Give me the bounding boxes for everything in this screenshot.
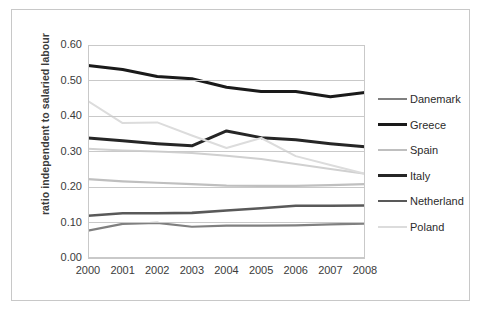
y-axis-tick-labels: 0.000.100.200.300.400.500.60 bbox=[36, 45, 82, 258]
legend-item-danemark[interactable]: Danemark bbox=[378, 90, 461, 108]
y-tick-label: 0.00 bbox=[38, 252, 82, 263]
legend-label: Spain bbox=[410, 144, 438, 156]
x-tick-label: 2008 bbox=[345, 264, 385, 276]
y-tick-label: 0.10 bbox=[38, 217, 82, 228]
legend-label: Netherland bbox=[410, 195, 464, 207]
y-tick-label: 0.40 bbox=[38, 110, 82, 121]
y-tick-label: 0.30 bbox=[38, 146, 82, 157]
legend-label: Italy bbox=[410, 170, 430, 182]
y-tick-label: 0.20 bbox=[38, 181, 82, 192]
legend-label: Greece bbox=[410, 119, 446, 131]
y-tick-label: 0.60 bbox=[38, 39, 82, 50]
chart-figure: ratio independent to salaried labour 0.0… bbox=[0, 0, 485, 319]
y-tick-label: 0.50 bbox=[38, 75, 82, 86]
legend-item-greece[interactable]: Greece bbox=[378, 116, 446, 134]
x-axis-tick-labels: 200020012002200320042005200620072008 bbox=[88, 264, 365, 280]
chart-legend: DanemarkGreeceSpainItalyNetherlandPoland bbox=[378, 90, 482, 245]
plot-area bbox=[88, 45, 365, 258]
plot-border bbox=[88, 45, 365, 258]
legend-swatch-poland-icon bbox=[378, 222, 407, 232]
legend-swatch-netherland-icon bbox=[378, 196, 407, 206]
legend-swatch-italy-icon bbox=[378, 171, 407, 181]
legend-swatch-danemark-icon bbox=[378, 94, 407, 104]
legend-swatch-greece-icon bbox=[378, 120, 407, 130]
legend-item-spain[interactable]: Spain bbox=[378, 141, 438, 159]
legend-label: Danemark bbox=[410, 93, 461, 105]
legend-item-netherland[interactable]: Netherland bbox=[378, 192, 464, 210]
legend-item-italy[interactable]: Italy bbox=[378, 167, 430, 185]
legend-label: Poland bbox=[410, 221, 444, 233]
legend-item-poland[interactable]: Poland bbox=[378, 218, 444, 236]
legend-swatch-spain-icon bbox=[378, 145, 407, 155]
